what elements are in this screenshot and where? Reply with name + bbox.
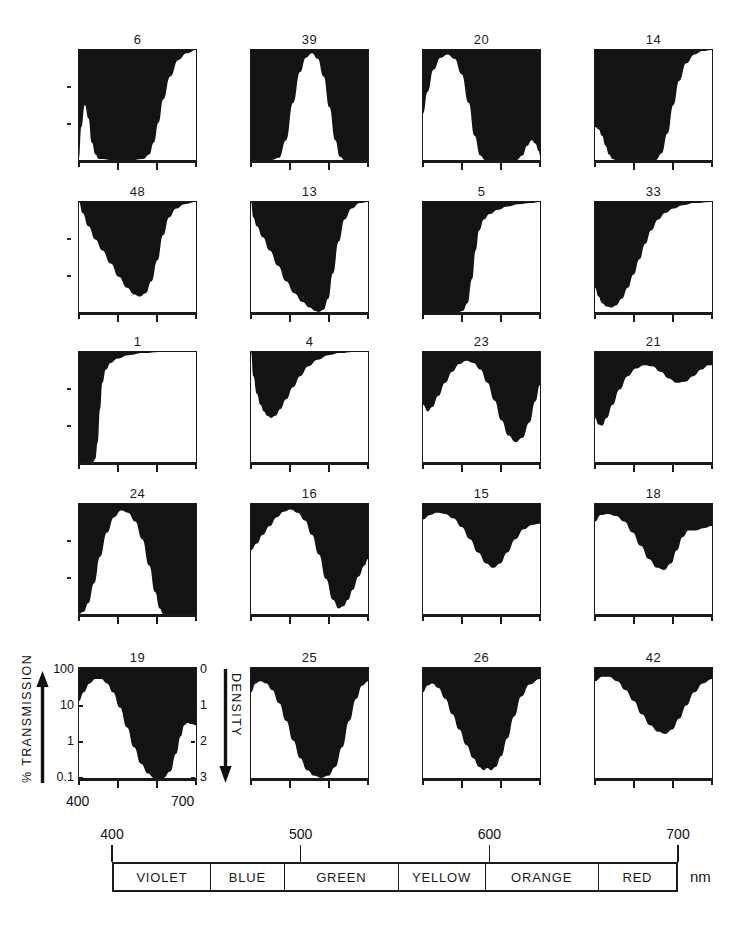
axis-line (78, 463, 197, 465)
axis-tick (461, 615, 463, 624)
wavelength-axis (250, 161, 369, 171)
color-band: YELLOW (399, 864, 486, 890)
transmission-tick-label: 100 (53, 663, 74, 676)
spectrum-plot (78, 667, 197, 779)
axis-line (422, 463, 541, 465)
axis-tick (461, 313, 463, 322)
axis-line (78, 779, 197, 781)
axis-line (78, 161, 197, 163)
axis-tick (633, 161, 635, 170)
panel-title: 1 (78, 334, 197, 349)
transmission-tick (79, 669, 83, 671)
axis-tick (594, 161, 596, 167)
transmission-tick (79, 777, 83, 779)
axis-tick (594, 463, 596, 469)
wavelength-axis (78, 615, 197, 625)
axis-tick (711, 161, 713, 167)
transmission-tick (79, 741, 83, 743)
axis-tick (500, 313, 502, 322)
axis-tick (461, 779, 463, 788)
axis-line (250, 615, 369, 617)
axis-tick (289, 615, 291, 624)
axis-line (594, 615, 713, 617)
density-tick-label: 3 (200, 771, 207, 784)
axis-tick (500, 615, 502, 624)
transmission-direction-arrow (36, 671, 49, 787)
axis-tick (156, 779, 158, 788)
wavelength-axis (594, 161, 713, 171)
axis-line (594, 161, 713, 163)
axis-tick (250, 161, 252, 167)
axis-tick (539, 313, 541, 319)
axis-tick (672, 463, 674, 472)
spectrum-plot (422, 351, 541, 463)
color-band-label: ORANGE (511, 870, 572, 885)
color-band-label: GREEN (316, 870, 366, 885)
axis-tick (633, 463, 635, 472)
axis-line (422, 161, 541, 163)
color-band: VIOLET (114, 864, 211, 890)
wavelength-axis (78, 161, 197, 171)
axis-tick-mark (67, 577, 71, 579)
axis-tick (422, 615, 424, 621)
axis-tick (78, 615, 80, 621)
axis-tick-mark (67, 123, 71, 125)
wavelength-axis (78, 463, 197, 473)
density-tick-label: 2 (200, 735, 207, 748)
axis-tick (289, 779, 291, 788)
axis-tick (539, 161, 541, 167)
axis-line (250, 313, 369, 315)
axis-tick (195, 463, 197, 469)
axis-tick-mark (67, 425, 71, 427)
wavelength-axis (594, 779, 713, 789)
axis-tick-mark (67, 388, 71, 390)
axis-tick (289, 463, 291, 472)
axis-tick (328, 313, 330, 322)
panel-title: 23 (422, 334, 541, 349)
axis-tick (594, 779, 596, 785)
panel-title: 5 (422, 184, 541, 199)
axis-line (422, 779, 541, 781)
scale-tick-label: 400 (100, 826, 123, 842)
filter-transmission-figure: 6392014481353314232124161518192526421001… (0, 0, 742, 938)
axis-tick (461, 161, 463, 170)
wavelength-axis (250, 615, 369, 625)
axis-tick (156, 161, 158, 170)
panel-title: 26 (422, 650, 541, 665)
density-tick (191, 741, 195, 743)
axis-tick (250, 313, 252, 319)
transmission-tick-label: 10 (60, 699, 74, 712)
color-band: BLUE (211, 864, 285, 890)
axis-tick (195, 615, 197, 621)
wavelength-axis (594, 313, 713, 323)
axis-tick (711, 779, 713, 785)
panel-title: 4 (250, 334, 369, 349)
axis-tick (250, 779, 252, 785)
axis-tick (633, 615, 635, 624)
axis-tick (367, 779, 369, 785)
axis-tick (289, 161, 291, 170)
wavelength-axis (250, 313, 369, 323)
axis-tick (711, 463, 713, 469)
wavelength-axis (78, 313, 197, 323)
wavelength-axis (250, 463, 369, 473)
axis-tick (633, 779, 635, 788)
axis-tick (539, 615, 541, 621)
spectrum-plot (250, 667, 369, 779)
axis-tick (195, 779, 197, 785)
spectrum-plot (594, 201, 713, 313)
scale-tick-label: 500 (289, 826, 312, 842)
axis-line (422, 313, 541, 315)
wavelength-scale: 400500600700VIOLETBLUEGREENYELLOWORANGER… (0, 0, 742, 80)
axis-tick (328, 779, 330, 788)
axis-line (594, 463, 713, 465)
axis-tick (539, 779, 541, 785)
panel-title: 16 (250, 486, 369, 501)
panel-title: 19 (78, 650, 197, 665)
spectrum-plot (78, 503, 197, 615)
axis-line (594, 779, 713, 781)
axis-tick (328, 615, 330, 624)
axis-tick (78, 463, 80, 469)
transmission-tick-label: 0.1 (57, 771, 74, 784)
color-band-label: VIOLET (136, 870, 187, 885)
